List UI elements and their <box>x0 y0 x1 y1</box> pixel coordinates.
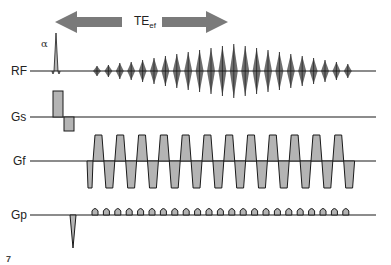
gf-positive-lobe <box>202 135 213 161</box>
gp-phase-blip <box>240 209 246 216</box>
gf-negative-lobe <box>257 161 268 188</box>
gf-positive-lobe <box>289 135 300 161</box>
gf-negative-lobe <box>169 161 180 188</box>
gp-phase-blip <box>309 209 315 216</box>
gp-phase-blip <box>115 209 121 216</box>
gp-phase-blip <box>320 209 326 216</box>
gs-gradient-lobe <box>64 117 74 131</box>
gp-phase-blip <box>103 209 109 216</box>
right-arrow-icon <box>162 11 228 33</box>
gp-phase-blip <box>217 209 223 216</box>
gf-positive-lobe <box>311 135 322 161</box>
gp-phase-blip <box>331 209 337 216</box>
gf-negative-lobe <box>300 161 311 188</box>
gf-negative-lobe <box>213 161 224 188</box>
gp-phase-blip <box>183 209 189 216</box>
row-label-rf: RF <box>11 65 27 77</box>
gp-phase-blip <box>195 209 201 216</box>
gf-negative-lobe <box>344 161 355 188</box>
gf-negative-lobe <box>235 161 246 188</box>
gs-gradient-lobe <box>53 91 63 117</box>
gf-positive-lobe <box>246 135 257 161</box>
gp-phase-blip <box>229 209 235 216</box>
figure-number-mark: 7 <box>6 254 11 264</box>
gp-phase-blip <box>126 209 132 216</box>
gf-positive-lobe <box>333 135 344 161</box>
gf-positive-lobe <box>158 135 169 161</box>
gp-phase-blip <box>297 209 303 216</box>
gf-negative-lobe <box>126 161 137 188</box>
gp-phase-blip <box>138 209 144 216</box>
gp-phase-blip <box>286 209 292 216</box>
gp-phase-blip <box>160 209 166 216</box>
gf-prephase-lobe <box>87 161 93 188</box>
gf-positive-lobe <box>267 135 278 161</box>
gp-phase-blip <box>252 209 258 216</box>
row-label-gp: Gp <box>11 209 27 221</box>
gf-positive-lobe <box>93 135 104 161</box>
gf-negative-lobe <box>322 161 333 188</box>
gf-negative-lobe <box>104 161 115 188</box>
gp-phase-blip <box>149 209 155 216</box>
gf-negative-lobe <box>191 161 202 188</box>
gf-positive-lobe <box>115 135 126 161</box>
gp-phase-blip <box>274 209 280 216</box>
gp-phase-blip <box>92 209 98 216</box>
row-label-gs: Gs <box>11 111 26 123</box>
gp-prephase-lobe <box>70 215 76 248</box>
gp-phase-blip <box>172 209 178 216</box>
te-label-subscript: ef <box>149 21 156 30</box>
gp-phase-blip <box>206 209 212 216</box>
rf-alpha-pulse <box>52 33 60 74</box>
flip-angle-label: α <box>41 38 48 49</box>
pulse-sequence-diagram <box>0 0 391 265</box>
gf-negative-lobe <box>278 161 289 188</box>
gf-positive-lobe <box>180 135 191 161</box>
te-effective-label: TEef <box>134 15 156 30</box>
te-label-main: TE <box>134 14 149 28</box>
gp-phase-blip <box>343 209 349 216</box>
left-arrow-icon <box>55 11 122 33</box>
gp-phase-blip <box>263 209 269 216</box>
gf-positive-lobe <box>224 135 235 161</box>
gf-positive-lobe <box>137 135 148 161</box>
gf-negative-lobe <box>148 161 159 188</box>
row-label-gf: Gf <box>13 155 26 167</box>
